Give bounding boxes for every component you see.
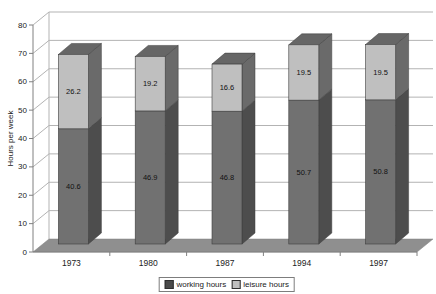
y-tick-label: 60	[18, 77, 27, 86]
working-value-label: 50.7	[296, 168, 311, 177]
y-tick-label: 80	[18, 21, 27, 30]
bar-1994-working-side	[319, 89, 332, 244]
leisure-value-label: 19.5	[296, 68, 311, 77]
y-tick-label: 10	[18, 219, 27, 228]
legend-item-working: working hours	[164, 280, 226, 289]
y-tick-label: 30	[18, 162, 27, 171]
x-category-label: 1973	[62, 258, 81, 268]
working-value-label: 46.9	[143, 173, 158, 182]
x-category-label: 1980	[139, 258, 158, 268]
x-category-label: 1994	[292, 258, 311, 268]
gridline	[33, 12, 433, 25]
leisure-value-label: 16.6	[220, 83, 235, 92]
leisure-value-label: 19.5	[373, 68, 388, 77]
legend-leisure-label: leisure hours	[243, 280, 289, 289]
bar-1980-working-side	[165, 100, 178, 244]
working-value-label: 40.6	[66, 182, 81, 191]
working-hours-swatch-icon	[164, 280, 173, 289]
bar-1997-working-side	[396, 89, 409, 244]
x-category-label: 1997	[369, 258, 388, 268]
y-tick-label: 20	[18, 191, 27, 200]
bar-1997-leisure-side	[396, 34, 409, 100]
leisure-value-label: 19.2	[143, 79, 158, 88]
y-tick-label: 50	[18, 106, 27, 115]
chart-plot-area: 0102030405060708040.626.2197346.919.2198…	[0, 0, 436, 294]
legend: working hours leisure hours	[158, 277, 295, 292]
working-value-label: 50.8	[373, 167, 388, 176]
x-category-label: 1987	[216, 258, 235, 268]
working-value-label: 46.8	[220, 173, 235, 182]
stacked-bar-chart-figure: Hours per week 0102030405060708040.626.2…	[0, 0, 436, 294]
leisure-hours-swatch-icon	[231, 280, 240, 289]
bar-1994-leisure-side	[319, 34, 332, 100]
bar-1987-working-side	[242, 100, 255, 244]
bar-1980-leisure-side	[165, 45, 178, 110]
legend-working-label: working hours	[176, 280, 226, 289]
bar-1973-leisure-side	[88, 43, 101, 128]
legend-item-leisure: leisure hours	[231, 280, 289, 289]
y-tick-label: 70	[18, 49, 27, 58]
y-tick-label: 0	[23, 248, 28, 257]
bar-1973-working-side	[88, 118, 101, 244]
y-tick-label: 40	[18, 134, 27, 143]
leisure-value-label: 26.2	[66, 87, 81, 96]
